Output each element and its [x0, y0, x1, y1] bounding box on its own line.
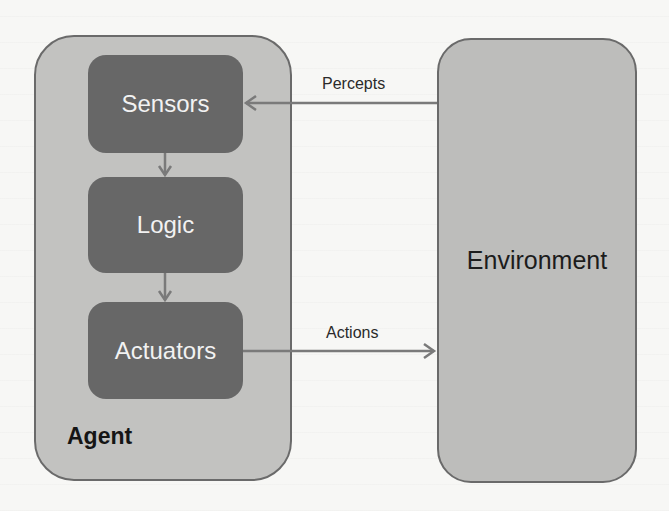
percepts-label: Percepts: [322, 75, 385, 93]
actions-arrow-icon: [243, 344, 434, 358]
logic-to-actuators-arrow-icon: [159, 273, 171, 300]
actions-label: Actions: [326, 324, 378, 342]
sensors-to-logic-arrow-icon: [159, 153, 171, 175]
percepts-arrow-icon: [246, 96, 437, 110]
